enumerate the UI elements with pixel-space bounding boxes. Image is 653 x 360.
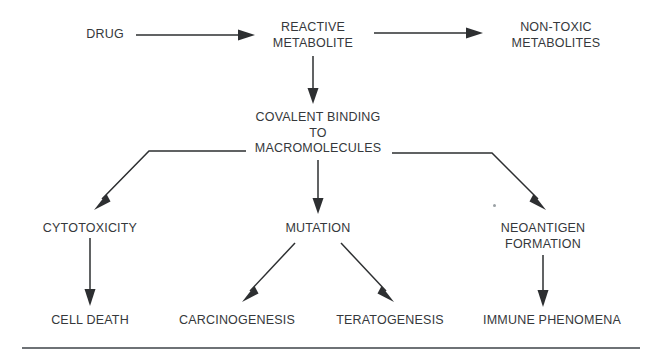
scan-speck: [493, 204, 496, 207]
edge-covalent-binding-to-neoantigen-formation: [392, 153, 546, 210]
node-non-toxic-metabolites: NON-TOXIC METABOLITES: [512, 20, 601, 51]
node-immune-phenomena: IMMUNE PHENOMENA: [483, 313, 621, 329]
node-non-toxic-metabolites-line-0: NON-TOXIC: [512, 20, 601, 36]
edge-cytotoxicity-to-cell-death: [85, 238, 96, 306]
node-drug: DRUG: [86, 27, 124, 43]
node-cytotoxicity-line-0: CYTOTOXICITY: [43, 221, 137, 237]
bottom-rule: [22, 347, 640, 349]
node-teratogenesis: TERATOGENESIS: [336, 313, 444, 329]
node-cytotoxicity: CYTOTOXICITY: [43, 221, 137, 237]
edge-covalent-binding-to-cytotoxicity: [94, 151, 246, 210]
edge-reactive-metabolite-to-non-toxic-metabolites: [374, 28, 483, 39]
node-reactive-metabolite: REACTIVE METABOLITE: [273, 20, 353, 51]
node-drug-line-0: DRUG: [86, 27, 124, 43]
node-reactive-metabolite-line-0: REACTIVE: [273, 20, 353, 36]
edge-neoantigen-formation-to-immune-phenomena: [538, 255, 549, 307]
node-covalent-binding-line-0: COVALENT BINDING: [255, 110, 381, 126]
node-cell-death-line-0: CELL DEATH: [51, 313, 129, 329]
edge-mutation-to-carcinogenesis: [242, 243, 295, 302]
node-neoantigen-formation-line-1: FORMATION: [501, 237, 586, 253]
node-immune-phenomena-line-0: IMMUNE PHENOMENA: [483, 313, 621, 329]
node-mutation-line-0: MUTATION: [285, 221, 350, 237]
node-neoantigen-formation: NEOANTIGEN FORMATION: [501, 221, 586, 252]
edge-covalent-binding-to-mutation: [313, 160, 324, 214]
node-non-toxic-metabolites-line-1: METABOLITES: [512, 36, 601, 52]
edge-drug-to-reactive-metabolite: [136, 30, 255, 41]
node-covalent-binding-line-1: TO: [255, 126, 381, 142]
node-mutation: MUTATION: [285, 221, 350, 237]
diagram-edges: [0, 0, 653, 360]
flowchart-diagram: DRUG REACTIVE METABOLITE NON-TOXIC METAB…: [0, 0, 653, 360]
node-reactive-metabolite-line-1: METABOLITE: [273, 36, 353, 52]
edge-mutation-to-teratogenesis: [341, 243, 394, 302]
node-carcinogenesis: CARCINOGENESIS: [179, 313, 295, 329]
node-covalent-binding-line-2: MACROMOLECULES: [255, 141, 381, 157]
node-covalent-binding: COVALENT BINDING TO MACROMOLECULES: [255, 110, 381, 157]
node-neoantigen-formation-line-0: NEOANTIGEN: [501, 221, 586, 237]
node-teratogenesis-line-0: TERATOGENESIS: [336, 313, 444, 329]
node-carcinogenesis-line-0: CARCINOGENESIS: [179, 313, 295, 329]
node-cell-death: CELL DEATH: [51, 313, 129, 329]
edge-reactive-metabolite-to-covalent-binding: [308, 56, 319, 104]
